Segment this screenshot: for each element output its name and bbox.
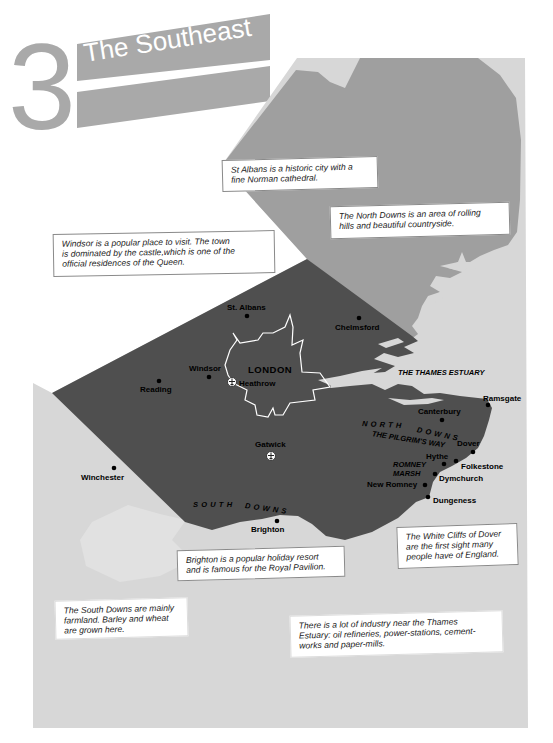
city-dot — [245, 314, 250, 319]
city-label-st-albans: St. Albans — [227, 303, 266, 312]
city-dot — [112, 466, 117, 471]
city-label-ramsgate: Ramsgate — [483, 394, 521, 403]
airport-label-heathrow: Heathrow — [239, 379, 275, 388]
airport-icon — [228, 378, 237, 387]
city-label-folkestone: Folkestone — [461, 462, 503, 471]
city-label-hythe: Hythe — [426, 452, 448, 461]
chapter-number: 3 — [8, 26, 76, 148]
city-label-brighton: Brighton — [251, 525, 284, 534]
city-dot — [433, 472, 438, 477]
airport-icon — [267, 452, 276, 461]
city-dot — [442, 462, 447, 467]
city-dot — [454, 459, 459, 464]
city-label-reading: Reading — [140, 385, 172, 394]
city-label-new-romney: New Romney — [367, 480, 417, 489]
info-box-south-downs: The South Downs are mainly farmland. Bar… — [55, 597, 189, 639]
info-box-windsor: Windsor is a popular place to visit. The… — [53, 230, 276, 277]
city-label-chelmsford: Chelmsford — [335, 323, 379, 332]
city-label-canterbury: Canterbury — [418, 407, 461, 416]
city-dot — [275, 519, 280, 524]
city-label-dungeness: Dungeness — [433, 496, 476, 505]
city-dot — [426, 495, 431, 500]
airport-label-gatwick: Gatwick — [255, 440, 286, 449]
city-dot — [207, 375, 212, 380]
region-label-south-downs-1: SOUTH — [193, 501, 235, 509]
region-label-marsh: MARSH — [393, 470, 421, 478]
info-box-brighton: Brighton is a popular holiday resort and… — [177, 546, 346, 581]
city-dot — [157, 379, 162, 384]
city-label-windsor: Windsor — [189, 364, 221, 373]
city-label-winchester: Winchester — [81, 473, 124, 482]
info-line: are grown here. — [64, 622, 181, 635]
region-label-thames-estuary: THE THAMES ESTUARY — [398, 369, 485, 377]
city-dot — [486, 403, 491, 408]
city-dot — [440, 418, 445, 423]
info-box-north-downs: The North Downs is an area of rolling hi… — [330, 202, 511, 240]
city-dot — [423, 483, 428, 488]
info-box-thames-industry: There is a lot of industry near the Tham… — [289, 610, 503, 658]
info-box-white-cliffs: The White Cliffs of Dover are the first … — [396, 523, 518, 569]
city-label-dymchurch: Dymchurch — [439, 474, 483, 483]
city-dot — [357, 316, 362, 321]
capital-label-london: LONDON — [248, 365, 292, 374]
city-dot — [471, 450, 476, 455]
info-box-st-albans: St Albans is a historic city with a fine… — [222, 156, 379, 192]
region-label-romney: ROMNEY — [393, 461, 426, 469]
